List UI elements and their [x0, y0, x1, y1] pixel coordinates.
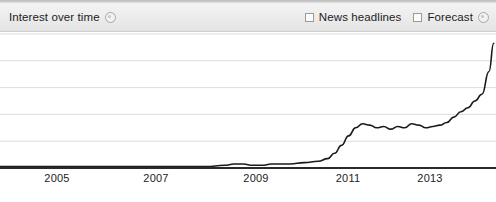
interest-over-time-panel: Interest over time News headlines Foreca… [0, 0, 496, 202]
x-axis-tick-label: 2005 [44, 172, 69, 184]
interest-line-chart [0, 32, 496, 170]
news-headlines-checkbox-control[interactable]: News headlines [305, 11, 402, 23]
forecast-help-circle-icon[interactable] [478, 12, 489, 23]
checkbox-unchecked-icon[interactable] [413, 13, 422, 22]
help-circle-icon[interactable] [105, 12, 116, 23]
interest-line-series [0, 43, 494, 166]
x-axis-tick-label: 2007 [143, 172, 168, 184]
panel-header: Interest over time News headlines Foreca… [0, 3, 496, 32]
checkbox-unchecked-icon[interactable] [305, 13, 314, 22]
panel-header-left: Interest over time [9, 11, 116, 23]
forecast-checkbox-control[interactable]: Forecast [413, 11, 489, 23]
x-axis-tick-label: 2009 [243, 172, 268, 184]
x-axis-tick-label: 2013 [417, 172, 442, 184]
x-axis-tick-labels: 20052007200920112013 [0, 172, 496, 188]
panel-header-controls: News headlines Forecast [305, 11, 489, 23]
chart-plot-area[interactable] [0, 32, 496, 170]
x-axis-tick-label: 2011 [336, 172, 360, 184]
page-title: Interest over time [9, 11, 100, 23]
news-headlines-label: News headlines [319, 11, 402, 23]
forecast-label: Forecast [427, 11, 473, 23]
